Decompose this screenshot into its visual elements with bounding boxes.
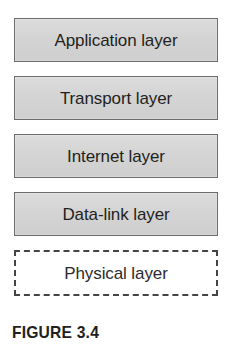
layer-box-transport[interactable]: Transport layer <box>14 76 218 120</box>
layer-box-data-link[interactable]: Data-link layer <box>14 192 218 236</box>
layer-label-internet: Internet layer <box>67 148 165 165</box>
figure-container: Application layer Transport layer Intern… <box>0 0 231 349</box>
layer-label-data-link: Data-link layer <box>62 206 169 223</box>
layer-label-application: Application layer <box>54 32 177 49</box>
layer-box-application[interactable]: Application layer <box>14 18 218 62</box>
layer-label-physical: Physical layer <box>64 265 167 282</box>
layer-box-physical[interactable]: Physical layer <box>14 250 218 296</box>
protocol-layer-stack: Application layer Transport layer Intern… <box>14 18 218 296</box>
layer-label-transport: Transport layer <box>60 90 172 107</box>
figure-caption: FIGURE 3.4 <box>12 324 99 341</box>
layer-box-internet[interactable]: Internet layer <box>14 134 218 178</box>
